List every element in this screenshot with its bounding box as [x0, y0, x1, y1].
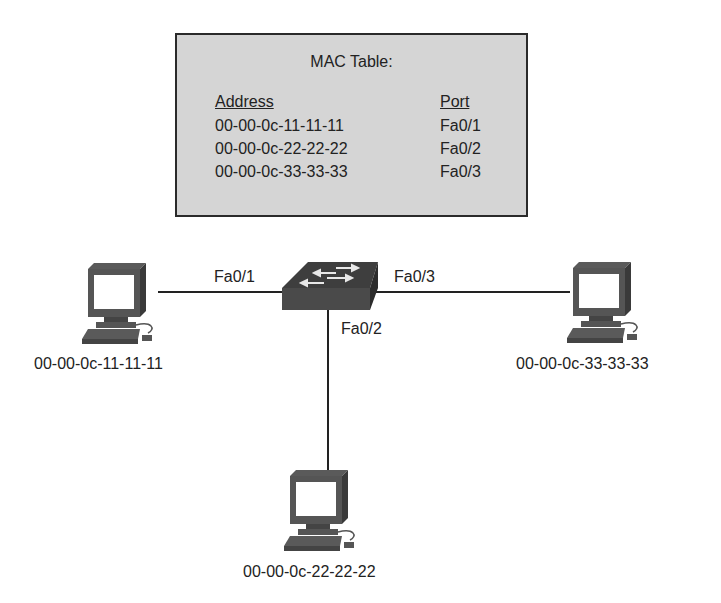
host-mac-label-right: 00-00-0c-33-33-33: [516, 355, 649, 373]
network-diagram: [0, 0, 721, 603]
port-label-fa0-2: Fa0/2: [341, 320, 382, 338]
computer-icon-bottom: [284, 470, 354, 551]
computer-icon-left: [82, 263, 152, 344]
host-mac-label-bottom: 00-00-0c-22-22-22: [243, 563, 376, 581]
switch-icon: [282, 262, 378, 310]
port-label-fa0-3: Fa0/3: [394, 268, 435, 286]
computer-icon-right: [567, 262, 637, 343]
port-label-fa0-1: Fa0/1: [214, 268, 255, 286]
host-mac-label-left: 00-00-0c-11-11-11: [34, 355, 163, 373]
